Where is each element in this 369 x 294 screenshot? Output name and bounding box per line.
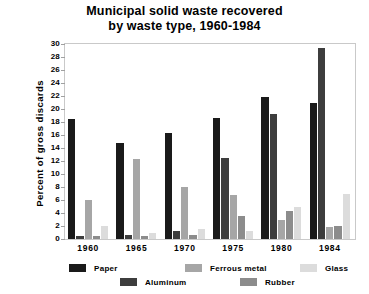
y-tick-label: 12 (51, 156, 60, 165)
bar (125, 235, 132, 239)
bar (198, 229, 205, 239)
chart-legend: PaperFerrous metalGlass AluminumRubber (0, 262, 369, 292)
legend-label: Ferrous metal (210, 264, 267, 273)
bar (238, 216, 245, 239)
y-tick-label: 2 (55, 221, 60, 230)
legend-item-paper[interactable]: Paper (69, 262, 118, 274)
x-tick-label: 1980 (257, 243, 305, 253)
y-tick-label: 6 (55, 195, 60, 204)
y-axis-label: Percent of gross discards (34, 49, 45, 239)
bar (334, 226, 341, 239)
legend-label: Paper (94, 264, 118, 273)
chart-title-line-1: Municipal solid waste recovered (0, 4, 369, 19)
y-tick-mark (61, 239, 65, 240)
y-tick-label: 22 (51, 91, 60, 100)
y-tick-label: 20 (51, 104, 60, 113)
x-tick-label: 1970 (161, 243, 209, 253)
bar-group (209, 43, 257, 239)
bar (133, 159, 140, 239)
x-axis-ticks: 196019651970197519801984 (64, 243, 356, 257)
legend-swatch (185, 264, 202, 272)
bar-group (161, 43, 209, 239)
bar (85, 200, 92, 239)
bar (181, 187, 188, 239)
bar (101, 226, 108, 239)
bar (141, 236, 148, 239)
y-tick-label: 4 (55, 208, 60, 217)
legend-row-2: AluminumRubber (0, 276, 369, 288)
chart-title-line-2: by waste type, 1960-1984 (0, 19, 369, 34)
bar (149, 233, 156, 240)
y-tick-label: 18 (51, 117, 60, 126)
bar (230, 195, 237, 239)
x-tick-label: 1965 (112, 243, 160, 253)
bar (173, 231, 180, 239)
chart-figure: Municipal solid waste recovered by waste… (0, 0, 369, 294)
legend-label: Aluminum (145, 278, 187, 287)
legend-label: Rubber (265, 278, 295, 287)
legend-row-1: PaperFerrous metalGlass (0, 262, 369, 274)
bar (213, 118, 220, 239)
y-tick-label: 10 (51, 169, 60, 178)
x-tick-label: 1984 (306, 243, 354, 253)
bar (221, 158, 228, 239)
bar (343, 194, 350, 240)
bar-group (112, 43, 160, 239)
bar (318, 48, 325, 239)
y-tick-label: 26 (51, 65, 60, 74)
bar (116, 143, 123, 239)
legend-swatch (120, 278, 137, 286)
legend-swatch (240, 278, 257, 286)
bar (326, 227, 333, 239)
bars-layer (64, 43, 356, 239)
legend-swatch (69, 264, 86, 272)
bar-group (257, 43, 305, 239)
legend-item-glass[interactable]: Glass (300, 262, 348, 274)
bar (68, 119, 75, 239)
bar (76, 236, 83, 239)
bar-group (306, 43, 354, 239)
bar (286, 211, 293, 239)
legend-item-rubber[interactable]: Rubber (240, 276, 295, 288)
bar (93, 236, 100, 239)
y-tick-label: 16 (51, 130, 60, 139)
y-tick-label: 30 (51, 39, 60, 48)
bar (261, 97, 268, 239)
y-tick-label: 14 (51, 143, 60, 152)
bar (246, 231, 253, 239)
bar (165, 133, 172, 239)
y-tick-label: 8 (55, 182, 60, 191)
y-tick-label: 28 (51, 52, 60, 61)
bar (270, 114, 277, 239)
bar (278, 220, 285, 239)
bar (310, 103, 317, 240)
legend-label: Glass (325, 264, 348, 273)
y-tick-label: 0 (55, 234, 60, 243)
legend-swatch (300, 264, 317, 272)
bar (294, 207, 301, 239)
x-tick-label: 1975 (209, 243, 257, 253)
x-tick-label: 1960 (64, 243, 112, 253)
legend-item-aluminum[interactable]: Aluminum (120, 276, 187, 288)
y-tick-label: 24 (51, 78, 60, 87)
bar-group (64, 43, 112, 239)
legend-item-ferrous-metal[interactable]: Ferrous metal (185, 262, 267, 274)
chart-title: Municipal solid waste recovered by waste… (0, 4, 369, 34)
bar (189, 235, 196, 239)
